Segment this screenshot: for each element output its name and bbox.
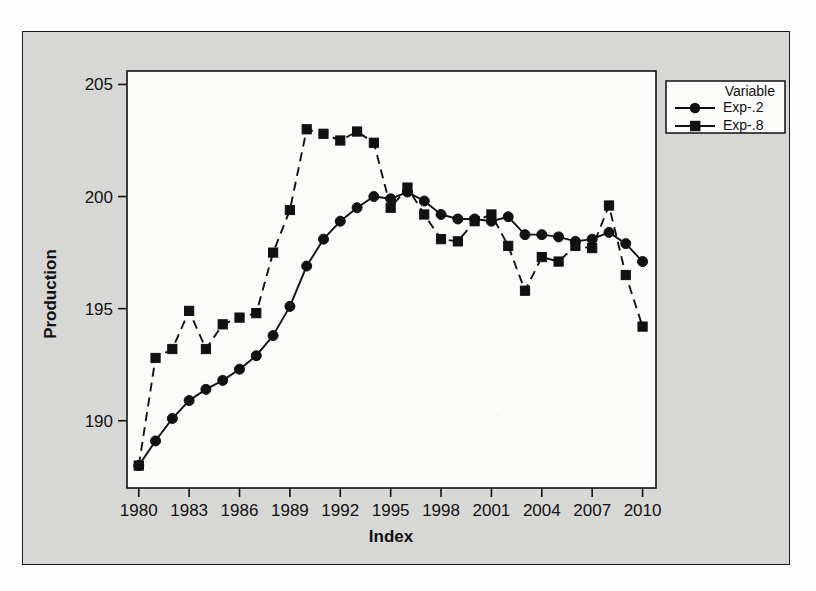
- data-point-square: [554, 257, 563, 266]
- data-point-square: [571, 241, 580, 250]
- data-point-circle: [638, 257, 648, 267]
- data-point-square: [470, 217, 479, 226]
- x-tick-label: 1983: [170, 501, 208, 520]
- circle-marker: [690, 103, 700, 113]
- data-point-square: [235, 313, 244, 322]
- y-axis-title: Production: [41, 249, 60, 339]
- data-point-circle: [235, 364, 245, 374]
- data-point-circle: [151, 436, 161, 446]
- x-axis-ticks: 1980198319861989199219951998200120042007…: [120, 488, 662, 520]
- data-point-circle: [268, 331, 278, 341]
- data-point-square: [621, 270, 630, 279]
- data-point-circle: [285, 301, 295, 311]
- y-axis-ticks: 190195200205: [85, 75, 127, 430]
- legend[interactable]: Variable Exp-.2Exp-.8: [666, 81, 785, 133]
- legend-label: Exp-.8: [723, 117, 764, 133]
- data-point-circle: [436, 209, 446, 219]
- data-point-circle: [520, 230, 530, 240]
- data-point-square: [520, 286, 529, 295]
- data-point-circle: [419, 196, 429, 206]
- production-line-chart: 190195200205 198019831986198919921995199…: [23, 32, 791, 566]
- data-point-square: [386, 203, 395, 212]
- data-point-circle: [453, 214, 463, 224]
- x-tick-label: 1986: [221, 501, 259, 520]
- data-point-square: [638, 322, 647, 331]
- data-point-circle: [335, 216, 345, 226]
- data-point-square: [185, 306, 194, 315]
- figure-frame: 190195200205 198019831986198919921995199…: [22, 31, 790, 565]
- data-point-square: [504, 241, 513, 250]
- data-point-square: [218, 320, 227, 329]
- data-point-square: [588, 244, 597, 253]
- data-point-circle: [167, 414, 177, 424]
- x-tick-label: 1980: [120, 501, 158, 520]
- data-point-square: [352, 127, 361, 136]
- data-point-circle: [184, 396, 194, 406]
- data-point-circle: [302, 261, 312, 271]
- data-point-square: [403, 183, 412, 192]
- data-point-square: [168, 344, 177, 353]
- page-background: 190195200205 198019831986198919921995199…: [0, 0, 816, 591]
- data-point-square: [134, 461, 143, 470]
- data-point-square: [269, 248, 278, 257]
- x-tick-label: 2001: [473, 501, 511, 520]
- x-tick-label: 1995: [372, 501, 410, 520]
- x-tick-label: 1992: [321, 501, 359, 520]
- data-point-circle: [318, 234, 328, 244]
- data-point-circle: [218, 375, 228, 385]
- x-tick-label: 1998: [422, 501, 460, 520]
- data-point-square: [285, 205, 294, 214]
- data-point-square: [604, 201, 613, 210]
- y-tick-label: 200: [85, 188, 113, 207]
- data-point-circle: [251, 351, 261, 361]
- data-point-circle: [352, 203, 362, 213]
- x-tick-label: 2007: [573, 501, 611, 520]
- data-point-square: [487, 210, 496, 219]
- data-point-square: [436, 235, 445, 244]
- data-point-square: [537, 252, 546, 261]
- data-point-square: [420, 210, 429, 219]
- data-point-circle: [537, 230, 547, 240]
- data-point-square: [201, 344, 210, 353]
- data-point-square: [336, 136, 345, 145]
- y-tick-label: 195: [85, 300, 113, 319]
- data-point-circle: [621, 239, 631, 249]
- x-tick-label: 2010: [624, 501, 662, 520]
- y-tick-label: 190: [85, 412, 113, 431]
- data-point-circle: [201, 384, 211, 394]
- data-point-circle: [503, 212, 513, 222]
- data-point-circle: [554, 232, 564, 242]
- legend-label: Exp-.2: [723, 99, 764, 115]
- x-tick-label: 1989: [271, 501, 309, 520]
- plot-area: [127, 71, 656, 488]
- y-tick-label: 205: [85, 75, 113, 94]
- data-point-square: [302, 125, 311, 134]
- data-point-square: [369, 138, 378, 147]
- data-point-circle: [604, 227, 614, 237]
- square-marker: [690, 121, 700, 131]
- data-point-square: [453, 237, 462, 246]
- data-point-square: [319, 129, 328, 138]
- data-point-square: [151, 353, 160, 362]
- data-point-circle: [369, 192, 379, 202]
- x-tick-label: 2004: [523, 501, 561, 520]
- x-axis-title: Index: [369, 527, 414, 546]
- legend-title: Variable: [725, 83, 776, 99]
- data-point-square: [252, 309, 261, 318]
